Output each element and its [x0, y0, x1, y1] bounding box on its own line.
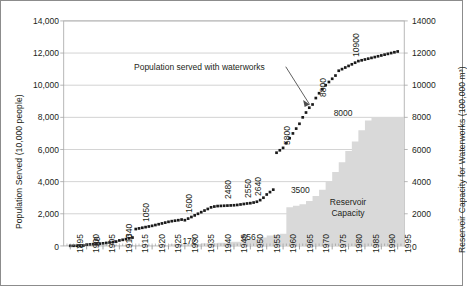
- point-label-80: 80: [92, 236, 102, 245]
- point-label-2550: 2550: [243, 179, 253, 198]
- reservoir-capacity-label-line1: Reservoir: [317, 197, 379, 208]
- point-label-2640: 2640: [253, 177, 263, 196]
- point-label-2480: 2480: [223, 180, 233, 199]
- point-label-7: 7: [75, 244, 85, 249]
- y-axis-right-tick-2000: 2000: [412, 209, 456, 219]
- y-axis-left-tick-4000: 4,000: [9, 177, 59, 187]
- y-axis-right-tick-4000: 4000: [412, 177, 456, 187]
- series-callout-label: Population served with waterworks: [134, 62, 265, 72]
- callout-leader-line: [286, 67, 310, 105]
- point-label-1600: 1600: [184, 194, 194, 213]
- x-axis-tick-1915: 1915: [140, 234, 150, 253]
- y-axis-right-tick-0: 0: [412, 242, 456, 252]
- x-axis-tick-1940: 1940: [223, 234, 233, 253]
- x-axis-tick-1970: 1970: [321, 234, 331, 253]
- x-axis-tick-1905: 1905: [107, 234, 117, 253]
- reservoir-capacity-label-line2: Capacity: [317, 208, 379, 219]
- y-axis-left-tick-10000: 10,000: [9, 80, 59, 90]
- y-axis-left-tick-2000: 2,000: [9, 209, 59, 219]
- point-label-8800: 8800: [318, 78, 328, 97]
- x-axis-tick-1955: 1955: [272, 234, 282, 253]
- point-label-3500: 3500: [291, 185, 310, 195]
- point-label-1050: 1050: [141, 203, 151, 222]
- point-label-10900: 10900: [351, 33, 361, 57]
- area-label-8000: 8000: [334, 108, 353, 118]
- x-axis-tick-1935: 1935: [206, 234, 216, 253]
- y-axis-left-tick-14000: 14,000: [9, 16, 59, 26]
- x-axis-tick-1920: 1920: [157, 234, 167, 253]
- y-axis-left-tick-12000: 12,000: [9, 48, 59, 58]
- x-axis-tick-1960: 1960: [288, 234, 298, 253]
- y-axis-right-tick-8000: 8000: [412, 112, 456, 122]
- x-axis-tick-1985: 1985: [371, 234, 381, 253]
- y-axis-left-tick-0: 0: [9, 242, 59, 252]
- x-axis-tick-1990: 1990: [387, 234, 397, 253]
- y-axis-left-tick-6000: 6,000: [9, 145, 59, 155]
- y-axis-right-tick-12000: 12000: [412, 48, 456, 58]
- y-axis-right-tick-10000: 10000: [412, 80, 456, 90]
- y-axis-left-tick-8000: 8,000: [9, 112, 59, 122]
- x-axis-tick-1975: 1975: [338, 234, 348, 253]
- x-axis-tick-1950: 1950: [255, 234, 265, 253]
- y-axis-right-tick-14000: 14000: [412, 16, 456, 26]
- point-label-340: 340: [124, 223, 134, 237]
- x-axis-tick-1965: 1965: [305, 234, 315, 253]
- y-axis-right-tick-6000: 6000: [412, 145, 456, 155]
- x-axis-tick-1995: 1995: [403, 234, 413, 253]
- area-label-172: 172: [182, 236, 196, 246]
- point-label-5800: 5800: [282, 126, 292, 145]
- x-axis-tick-1980: 1980: [354, 234, 364, 253]
- reservoir-capacity-area-label: Reservoir Capacity: [317, 197, 379, 219]
- area-label-656: 656: [242, 232, 256, 242]
